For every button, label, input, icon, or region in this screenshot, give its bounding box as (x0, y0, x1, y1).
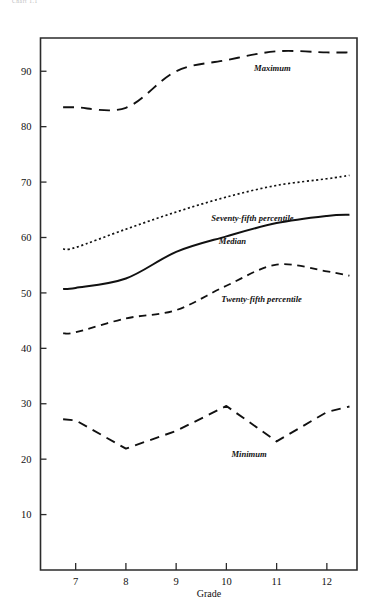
y-tick-label-30: 30 (21, 398, 32, 409)
x-tick-label-7: 7 (73, 576, 78, 587)
y-tick-label-50: 50 (21, 288, 32, 299)
series-line-median (63, 215, 349, 289)
series-lines (63, 51, 349, 449)
y-tick-label-70: 70 (21, 177, 32, 188)
series-line-twenty-fifth-percentile (63, 264, 349, 334)
x-tick-label-9: 9 (174, 576, 179, 587)
series-line-maximum (63, 51, 349, 110)
x-tick-label-11: 11 (272, 576, 282, 587)
series-line-minimum (63, 406, 349, 449)
figure-root: Chart 1.1 102030405060708090 789101112 M… (0, 0, 373, 604)
x-tick-label-10: 10 (221, 576, 232, 587)
x-tick-label-12: 12 (322, 576, 333, 587)
y-tick-label-40: 40 (21, 343, 32, 354)
series-label-twenty-fifth-percentile: Twenty-fifth percentile (221, 294, 302, 304)
series-label-maximum: Maximum (253, 63, 291, 73)
series-label-seventy-fifth-percentile: Seventy-fifth percentile (211, 213, 294, 223)
series-label-median: Median (218, 236, 246, 246)
x-axis-ticks: 789101112 (73, 563, 332, 587)
y-tick-label-20: 20 (21, 454, 32, 465)
series-line-seventy-fifth-percentile (63, 175, 349, 249)
series-annotations: MaximumSeventy-fifth percentileMedianTwe… (211, 63, 302, 459)
axis-frame-path (41, 38, 358, 570)
axes-frame (41, 38, 358, 570)
line-chart-plot: 102030405060708090 789101112 MaximumSeve… (0, 0, 373, 604)
x-axis-label: Grade (197, 588, 222, 599)
y-tick-label-90: 90 (21, 66, 32, 77)
y-tick-label-80: 80 (21, 121, 32, 132)
series-label-minimum: Minimum (230, 449, 267, 459)
y-tick-label-60: 60 (21, 232, 32, 243)
y-axis-ticks: 102030405060708090 (21, 66, 47, 520)
y-tick-label-10: 10 (21, 509, 32, 520)
x-tick-label-8: 8 (123, 576, 128, 587)
